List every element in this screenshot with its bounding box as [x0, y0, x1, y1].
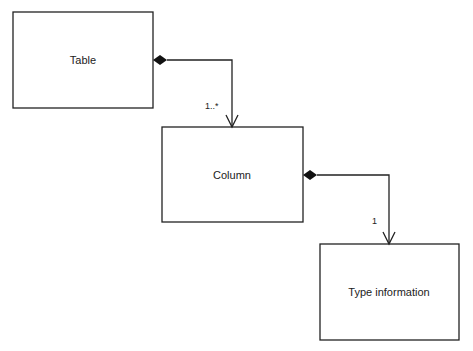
table-class-label: Table [70, 54, 96, 66]
type-information-class-label: Type information [348, 286, 429, 298]
multiplicity-label: 1 [372, 216, 377, 226]
column-type-connector [317, 175, 389, 244]
composition-diamond-icon [303, 170, 317, 180]
uml-diagram: Table Column Type information 1..* 1 [0, 0, 473, 351]
table-column-connector [167, 60, 232, 127]
composition-diamond-icon [153, 55, 167, 65]
multiplicity-label: 1..* [205, 101, 219, 111]
column-class-label: Column [213, 169, 251, 181]
